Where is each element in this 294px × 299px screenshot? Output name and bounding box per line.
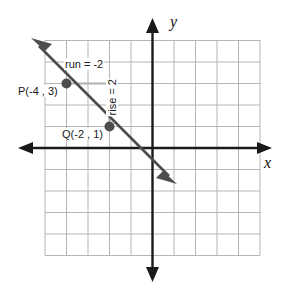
point-q-label: Q(-2 , 1) bbox=[61, 128, 104, 140]
y-axis bbox=[146, 18, 159, 282]
point-p-marker bbox=[62, 79, 72, 89]
rise-label: rise = 2 bbox=[106, 78, 118, 116]
coordinate-plane-figure: run = -2 rise = 2 P(-4 , 3) Q(-2 , 1) y … bbox=[0, 0, 294, 299]
run-label: run = -2 bbox=[64, 58, 104, 70]
point-p-label: P(-4 , 3) bbox=[17, 85, 59, 97]
graph-canvas bbox=[0, 0, 294, 299]
y-axis-label: y bbox=[170, 14, 177, 30]
x-axis-label: x bbox=[264, 155, 271, 171]
point-q-marker bbox=[105, 122, 115, 132]
